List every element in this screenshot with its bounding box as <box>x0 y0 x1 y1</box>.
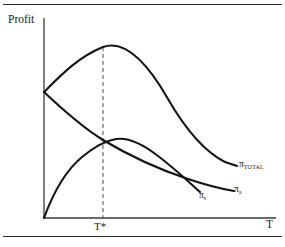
x-tick-label-tstar: T* <box>94 221 106 232</box>
pi-subscript-a: a <box>239 188 242 195</box>
figure-frame: Profit T T* πTOTAL πa πs <box>0 0 285 247</box>
curve-pi-a <box>44 92 234 191</box>
profit-curves-plot <box>0 0 285 247</box>
curve-pi-total <box>44 46 237 166</box>
pi-subscript-total: TOTAL <box>244 163 264 170</box>
curve-label-pi-s: πs <box>199 191 206 201</box>
curve-label-pi-total: πTOTAL <box>239 160 264 170</box>
pi-subscript-s: s <box>204 194 207 201</box>
y-axis-label: Profit <box>8 14 34 26</box>
x-axis-label: T <box>266 219 273 231</box>
curve-label-pi-a: πa <box>234 185 242 195</box>
